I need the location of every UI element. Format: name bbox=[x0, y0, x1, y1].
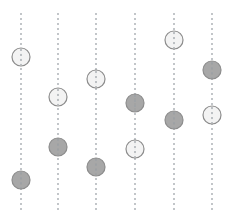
plot-canvas bbox=[0, 0, 234, 221]
dot-plot-figure bbox=[0, 0, 234, 221]
plot-background bbox=[0, 0, 234, 221]
